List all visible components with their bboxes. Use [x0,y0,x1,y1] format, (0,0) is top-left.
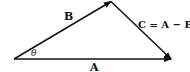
label-a: A [89,61,99,72]
vector-triangle-diagram: B θ A C = A − B [0,0,190,72]
label-b: B [64,10,73,23]
vector-b-arrow [14,2,111,60]
vector-c-arrow [111,2,171,60]
label-theta: θ [31,48,37,58]
label-c: C = A − B [138,19,190,30]
